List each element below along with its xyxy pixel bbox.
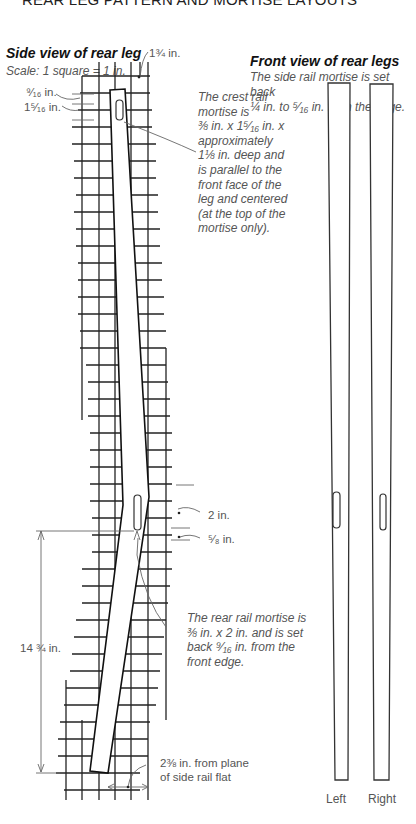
note-line: 2⅜ in. from plane (160, 756, 249, 770)
note-line: front edge. (187, 655, 306, 670)
note-line: (at the top of the (198, 207, 287, 222)
note-line: leg and centered (198, 192, 287, 207)
dim-top-width: 1¾ in. (149, 47, 180, 59)
front-view-legs (328, 83, 393, 780)
note-line: approximately (198, 134, 287, 149)
dim-rear-mortise-length: 2 in. (208, 509, 230, 521)
note-line: front face of the (198, 178, 287, 193)
dim-foot-offset: 2⅜ in. from plane of side rail flat (160, 756, 249, 784)
note-line: ⅜ in. x 2 in. and is set (187, 626, 306, 641)
right-side-rail-mortise (380, 494, 386, 530)
note-line: 1⅛ in. deep and (198, 148, 287, 163)
note-line: The crest rail (198, 90, 287, 105)
rear-rail-note: The rear rail mortise is ⅜ in. x 2 in. a… (187, 611, 306, 669)
crest-rail-note: The crest rail mortise is ⅜ in. x 1⁵⁄₁₆ … (198, 90, 287, 236)
dim-top-offset-b: 1⁵⁄₁₆ in. (24, 101, 61, 113)
note-line: mortise is (198, 105, 287, 120)
note-line: mortise only). (198, 221, 287, 236)
note-line: ⅜ in. x 1⁵⁄₁₆ in. x (198, 119, 287, 134)
rear-rail-mortise (134, 495, 141, 530)
left-side-rail-mortise (333, 492, 340, 528)
note-line: is parallel to the (198, 163, 287, 178)
note-line: of side rail flat (160, 770, 249, 784)
front-leg-left (328, 83, 350, 780)
note-line: back ⁹⁄₁₆ in. from the (187, 640, 306, 655)
left-leg-label: Left (326, 792, 346, 806)
note-line: The rear rail mortise is (187, 611, 306, 626)
right-leg-label: Right (368, 792, 396, 806)
crest-rail-mortise (116, 100, 123, 120)
front-leg-right (370, 84, 393, 780)
dim-rear-mortise-offset: ⁵⁄₈ in. (208, 533, 235, 545)
dim-top-offset-a: ⁹⁄₁₆ in. (26, 86, 57, 98)
dim-height: 14 ¾ in. (20, 642, 61, 654)
